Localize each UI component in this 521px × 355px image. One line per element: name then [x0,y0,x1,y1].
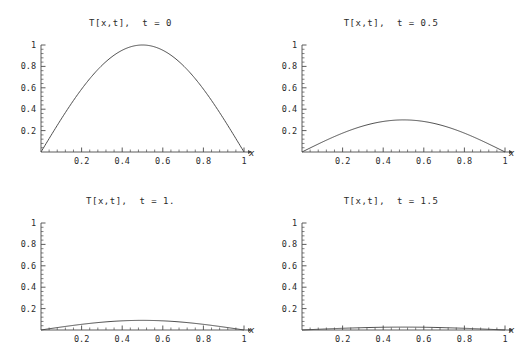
y-tick-label: 0.4 [282,104,297,114]
x-tick-label: 0.8 [457,334,472,344]
x-tick-label: 0.4 [376,156,391,166]
x-tick-label: 1 [502,156,507,166]
x-tick-label: 0.6 [416,156,431,166]
x-tick-label: 0.4 [115,156,130,166]
x-tick-label: 1 [502,334,507,344]
x-tick-label: 1 [241,334,246,344]
data-curve [41,45,244,152]
y-tick-label: 1 [292,40,297,50]
x-axis-label-t1: x [249,325,254,335]
x-tick-label: 0.4 [115,334,130,344]
x-tick-label: 0.2 [335,334,350,344]
y-tick-label: 0.6 [21,83,36,93]
y-tick-label: 0.2 [21,126,36,136]
panel-canvas-t0: 0.20.40.60.810.20.40.60.81 [0,0,261,178]
y-tick-label: 0.6 [282,83,297,93]
x-tick-label: 0.2 [74,156,89,166]
plot-grid: T[x,t], t = 0 0.20.40.60.810.20.40.60.81… [0,0,521,355]
y-tick-label: 0.4 [21,282,36,292]
y-tick-label: 1 [31,218,36,228]
x-tick-label: 0.8 [196,156,211,166]
y-tick-label: 1 [292,218,297,228]
panel-canvas-t05: 0.20.40.60.810.20.40.60.81 [261,0,521,178]
x-tick-label: 0.6 [416,334,431,344]
y-tick-label: 0.8 [282,61,297,71]
x-tick-label: 0.8 [196,334,211,344]
y-tick-label: 0.8 [282,239,297,249]
plot-panel-t0: T[x,t], t = 0 0.20.40.60.810.20.40.60.81… [0,0,261,178]
x-axis-label-t15: x [509,325,514,335]
y-tick-label: 0.6 [21,261,36,271]
plot-panel-t1: T[x,t], t = 1. 0.20.40.60.810.20.40.60.8… [0,178,261,355]
x-tick-label: 0.4 [376,334,391,344]
data-curve [302,120,505,152]
x-tick-label: 0.6 [155,334,170,344]
x-tick-label: 0.2 [74,334,89,344]
y-tick-label: 0.2 [282,304,297,314]
panel-canvas-t15: 0.20.40.60.810.20.40.60.81 [261,178,521,355]
data-curve [41,320,244,330]
y-tick-label: 0.2 [21,304,36,314]
y-tick-label: 0.8 [21,61,36,71]
y-tick-label: 0.4 [282,282,297,292]
x-tick-label: 1 [241,156,246,166]
x-axis-label-t05: x [509,148,514,158]
y-tick-label: 0.2 [282,126,297,136]
y-tick-label: 0.8 [21,239,36,249]
y-tick-label: 0.6 [282,261,297,271]
x-tick-label: 0.6 [155,156,170,166]
x-axis-label-t0: x [249,148,254,158]
x-tick-label: 0.8 [457,156,472,166]
y-tick-label: 1 [31,40,36,50]
plot-panel-t05: T[x,t], t = 0.5 0.20.40.60.810.20.40.60.… [261,0,521,178]
x-tick-label: 0.2 [335,156,350,166]
panel-canvas-t1: 0.20.40.60.810.20.40.60.81 [0,178,261,355]
y-tick-label: 0.4 [21,104,36,114]
plot-panel-t15: T[x,t], t = 1.5 0.20.40.60.810.20.40.60.… [261,178,521,355]
